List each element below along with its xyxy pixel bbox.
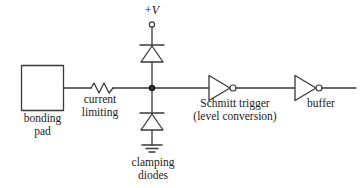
schmitt-trigger-label-line1: Schmitt trigger: [200, 97, 269, 109]
current-limiting-label-line2: limiting: [82, 106, 118, 118]
lower-diode-triangle: [141, 114, 163, 130]
current-limiting-label: current limiting: [62, 93, 138, 119]
bonding-pad-label-line2: pad: [34, 125, 51, 137]
clamping-diodes-label-line1: clamping: [132, 156, 175, 168]
supply-v-symbol: V: [152, 3, 160, 17]
bonding-pad-box: [22, 66, 64, 111]
clamping-diodes-label: clamping diodes: [116, 156, 190, 182]
circuit-diagram: bonding pad current limiting +V clamping…: [0, 0, 363, 188]
buffer-label: buffer: [294, 97, 348, 110]
schmitt-trigger-bubble: [230, 85, 236, 91]
supply-plus-sign: +: [145, 3, 152, 17]
bonding-pad-label-line1: bonding: [24, 112, 62, 124]
current-limiting-resistor-symbol: [91, 83, 113, 93]
supply-terminal-circle: [149, 22, 154, 27]
clamping-diodes-label-line2: diodes: [138, 169, 168, 181]
schmitt-trigger-label: Schmitt trigger (level conversion): [176, 97, 294, 123]
buffer-bubble: [316, 85, 322, 91]
supply-voltage-label: +V: [128, 4, 176, 17]
current-limiting-label-line1: current: [84, 93, 117, 105]
upper-diode-triangle: [141, 46, 163, 62]
schmitt-trigger-label-line2: (level conversion): [193, 110, 276, 122]
